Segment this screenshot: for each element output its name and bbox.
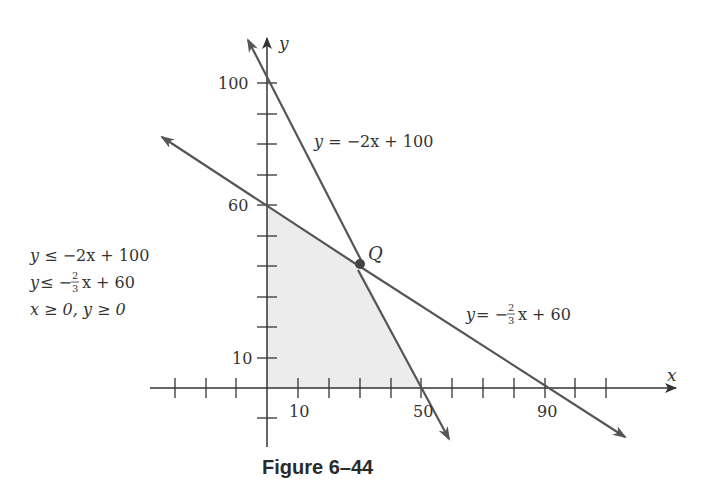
- constraint-2-y: y: [29, 273, 40, 292]
- point-q: [355, 259, 365, 269]
- constraint-2-tail: x + 60: [82, 273, 135, 292]
- figure-caption: Figure 6–44: [262, 456, 374, 478]
- svg-text:x + 60: x + 60: [518, 305, 571, 324]
- y-axis-label: y: [278, 33, 289, 53]
- svg-text:y = −2x + 100: y = −2x + 100: [313, 132, 433, 151]
- x-axis-label: x: [667, 365, 677, 385]
- feasible-region: [267, 205, 420, 388]
- y-tick-label-10: 10: [232, 349, 252, 368]
- line1-equation-label: y = −2x + 100: [313, 132, 433, 151]
- constraints-system: y ≤ −2x + 100 y ≤ − 2 3 x + 60 x ≥ 0, y …: [29, 246, 149, 319]
- constraint-2-op: ≤ −: [40, 273, 72, 292]
- y-tick-label-100: 100: [218, 74, 249, 93]
- x-tick-label-50: 50: [413, 402, 433, 421]
- svg-text:3: 3: [508, 315, 514, 326]
- svg-text:2: 2: [72, 270, 78, 281]
- x-tick-label-90: 90: [537, 402, 557, 421]
- svg-text:3: 3: [72, 283, 78, 294]
- chart-figure: Q y x 10 50 90 10 60 100 y = −2x + 100 y…: [0, 0, 709, 486]
- x-tick-label-10: 10: [289, 402, 309, 421]
- constraint-3: x ≥ 0, y ≥ 0: [30, 300, 126, 319]
- y-tick-label-60: 60: [228, 196, 248, 215]
- svg-text:2: 2: [508, 302, 514, 313]
- line-y-neg2x-plus-100: [248, 40, 362, 262]
- constraint-1: y ≤ −2x + 100: [29, 246, 149, 265]
- svg-text:= −: = −: [476, 305, 508, 324]
- svg-text:y: y: [465, 305, 476, 324]
- point-q-label: Q: [368, 243, 383, 264]
- line2-equation-label: y = − 2 3 x + 60: [465, 302, 571, 326]
